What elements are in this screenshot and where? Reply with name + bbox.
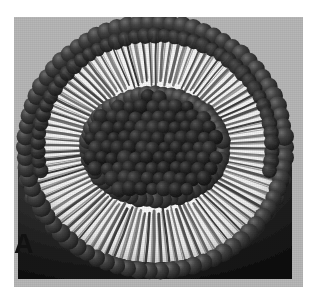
panel-label: A	[14, 231, 34, 258]
figure-plate	[14, 17, 303, 287]
figure-panel: A	[0, 0, 318, 305]
liposome-illustration	[14, 17, 303, 287]
